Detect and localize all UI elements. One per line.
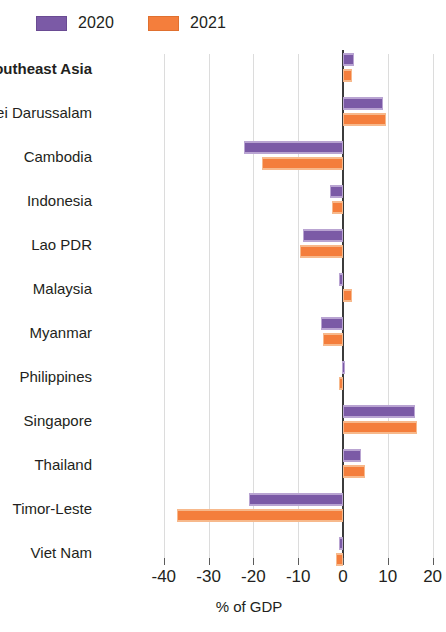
bar-2021-singapore bbox=[343, 421, 417, 434]
bar-fill bbox=[344, 291, 351, 300]
bar-2020-indonesia bbox=[330, 185, 343, 198]
bar-group bbox=[0, 398, 440, 442]
bar-2021-malaysia bbox=[343, 289, 352, 302]
bar-group bbox=[0, 442, 440, 486]
bar-fill bbox=[344, 115, 385, 124]
bar-fill bbox=[178, 511, 342, 520]
chart-plot-area: Southeast AsiaBrunei DarussalamCambodiaI… bbox=[0, 46, 440, 632]
table-row: Brunei Darussalam bbox=[0, 90, 440, 134]
bar-2021-philippines bbox=[339, 377, 343, 390]
bar-fill bbox=[344, 99, 382, 108]
bar-2020-philippines bbox=[342, 361, 345, 374]
bar-fill bbox=[344, 55, 353, 64]
bar-fill bbox=[344, 407, 414, 416]
bar-group bbox=[0, 266, 440, 310]
table-row: Thailand bbox=[0, 442, 440, 486]
bar-fill bbox=[340, 539, 342, 548]
legend-swatch-2020 bbox=[36, 16, 67, 31]
bar-fill bbox=[344, 467, 364, 476]
legend-swatch-2021 bbox=[148, 16, 179, 31]
bar-group bbox=[0, 134, 440, 178]
table-row: Singapore bbox=[0, 398, 440, 442]
x-tick-label-10: 10 bbox=[363, 567, 413, 587]
bar-2020-singapore bbox=[343, 405, 415, 418]
bar-fill bbox=[340, 275, 342, 284]
bar-group bbox=[0, 90, 440, 134]
x-tick--20 bbox=[253, 558, 254, 565]
legend-item-2020: 2020 bbox=[36, 14, 114, 32]
bar-2021-southeast-asia bbox=[343, 69, 352, 82]
legend-label-2021: 2021 bbox=[190, 14, 226, 32]
bar-fill bbox=[344, 451, 360, 460]
bar-2020-malaysia bbox=[339, 273, 343, 286]
table-row: Cambodia bbox=[0, 134, 440, 178]
legend-label-2020: 2020 bbox=[78, 14, 114, 32]
bar-fill bbox=[344, 71, 351, 80]
bar-2020-timor-leste bbox=[249, 493, 343, 506]
x-tick--10 bbox=[298, 558, 299, 565]
bar-2021-cambodia bbox=[262, 157, 343, 170]
bar-group bbox=[0, 46, 440, 90]
table-row: Myanmar bbox=[0, 310, 440, 354]
bar-2021-timor-leste bbox=[177, 509, 343, 522]
bar-fill bbox=[250, 495, 342, 504]
bar-2020-myanmar bbox=[321, 317, 343, 330]
bar-fill bbox=[322, 319, 342, 328]
bar-fill bbox=[333, 203, 342, 212]
table-row: Lao PDR bbox=[0, 222, 440, 266]
bar-fill bbox=[324, 335, 342, 344]
x-tick-label--40: -40 bbox=[139, 567, 189, 587]
bar-fill bbox=[263, 159, 342, 168]
bar-group bbox=[0, 486, 440, 530]
bar-group bbox=[0, 354, 440, 398]
x-tick-20 bbox=[433, 558, 434, 565]
bar-2021-myanmar bbox=[323, 333, 343, 346]
table-row: Malaysia bbox=[0, 266, 440, 310]
bar-2020-brunei-darussalam bbox=[343, 97, 383, 110]
table-row: Indonesia bbox=[0, 178, 440, 222]
bar-fill bbox=[340, 379, 342, 388]
table-row: Southeast Asia bbox=[0, 46, 440, 90]
bar-2020-viet-nam bbox=[339, 537, 343, 550]
bar-2021-indonesia bbox=[332, 201, 343, 214]
x-tick--30 bbox=[209, 558, 210, 565]
bar-2021-thailand bbox=[343, 465, 365, 478]
x-tick-label-20: 20 bbox=[408, 567, 446, 587]
x-tick-label--30: -30 bbox=[184, 567, 234, 587]
bar-group bbox=[0, 222, 440, 266]
x-axis-title: % of GDP bbox=[0, 598, 440, 615]
x-tick--40 bbox=[164, 558, 165, 565]
bar-fill bbox=[343, 363, 344, 372]
bar-group bbox=[0, 178, 440, 222]
bar-2020-southeast-asia bbox=[343, 53, 354, 66]
bar-2021-brunei-darussalam bbox=[343, 113, 386, 126]
bar-2020-thailand bbox=[343, 449, 361, 462]
chart-legend: 20202021 bbox=[0, 0, 440, 46]
bar-fill bbox=[245, 143, 342, 152]
legend-item-2021: 2021 bbox=[148, 14, 226, 32]
bar-group bbox=[0, 310, 440, 354]
bar-fill bbox=[304, 231, 342, 240]
bar-fill bbox=[301, 247, 342, 256]
table-row: Timor-Leste bbox=[0, 486, 440, 530]
bar-2021-lao-pdr bbox=[300, 245, 343, 258]
x-tick-10 bbox=[388, 558, 389, 565]
x-tick-label-0: 0 bbox=[318, 567, 368, 587]
bar-fill bbox=[344, 423, 416, 432]
bar-2020-cambodia bbox=[244, 141, 343, 154]
bar-fill bbox=[331, 187, 342, 196]
table-row: Philippines bbox=[0, 354, 440, 398]
x-tick-0 bbox=[343, 558, 344, 565]
chart-rows: Southeast AsiaBrunei DarussalamCambodiaI… bbox=[0, 46, 440, 574]
bar-2020-lao-pdr bbox=[303, 229, 343, 242]
x-tick-label--20: -20 bbox=[228, 567, 278, 587]
x-axis: % of GDP -40-30-20-1001020 bbox=[0, 558, 440, 632]
x-tick-label--10: -10 bbox=[273, 567, 323, 587]
